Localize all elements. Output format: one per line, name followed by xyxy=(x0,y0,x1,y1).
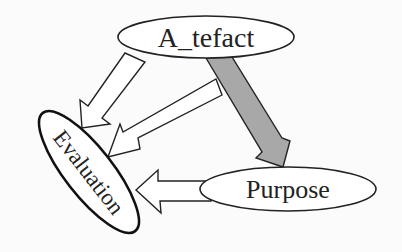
arrow-relation-to-evaluation xyxy=(108,79,222,157)
node-artefact: A_tefact xyxy=(118,16,294,58)
arrow-artefact-to-purpose xyxy=(206,57,290,167)
node-purpose-label: Purpose xyxy=(246,175,330,204)
node-purpose: Purpose xyxy=(200,167,376,211)
node-artefact-label: A_tefact xyxy=(158,22,255,53)
diagram-canvas: A_tefact Evaluation Purpose xyxy=(0,0,402,252)
arrow-artefact-to-evaluation xyxy=(80,53,145,128)
